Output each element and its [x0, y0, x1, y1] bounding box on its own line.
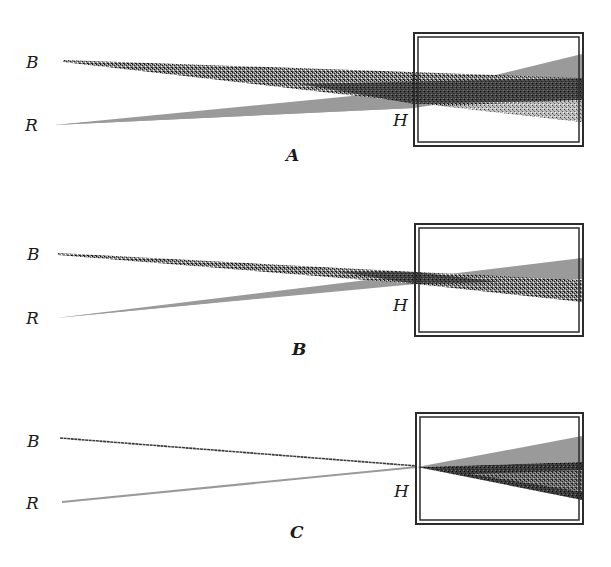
b-beam: [58, 253, 582, 302]
label-b: B: [25, 52, 39, 72]
caption-a: A: [284, 145, 299, 165]
label-r: R: [24, 115, 38, 135]
label-b: B: [26, 431, 40, 451]
r-beam-line: [62, 467, 417, 502]
caption-b: B: [291, 339, 306, 359]
beam-diagram: B R H A B R H B B R H C: [0, 0, 611, 567]
r-beam: [417, 436, 582, 467]
panel-a: B R H A: [24, 33, 583, 165]
caption-c: C: [290, 522, 304, 542]
label-b: B: [26, 244, 40, 264]
b-beam-line: [60, 438, 417, 466]
label-h: H: [392, 295, 409, 315]
label-r: R: [25, 493, 39, 513]
label-r: R: [25, 308, 39, 328]
panel-b: B R H B: [25, 224, 583, 359]
panel-c: B R H C: [25, 413, 583, 542]
r-beam-tail: [56, 274, 416, 318]
label-h: H: [392, 110, 409, 130]
label-h: H: [393, 481, 410, 501]
